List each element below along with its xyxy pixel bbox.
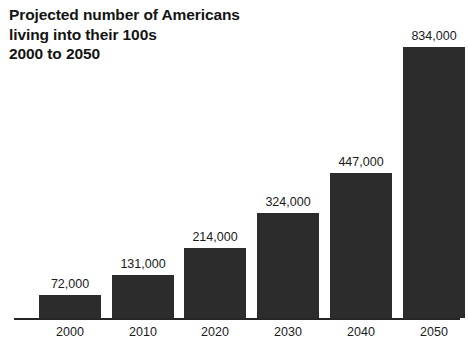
bar-group: 214,000 (184, 248, 246, 318)
bar-group: 131,000 (112, 275, 174, 318)
bar-value-label: 834,000 (389, 29, 468, 43)
x-tick-label-2010: 2010 (104, 324, 182, 340)
x-tick-label-2030: 2030 (249, 324, 327, 340)
bar-value-label: 72,000 (25, 277, 115, 291)
bar (403, 47, 465, 318)
bar-value-label: 131,000 (98, 257, 188, 271)
x-tick-label-2040: 2040 (322, 324, 400, 340)
bar-group: 324,000 (257, 213, 319, 318)
x-tick-label-2050: 2050 (395, 324, 468, 340)
x-axis-tick-labels: 200020102020203020402050 (14, 324, 460, 344)
bar-value-label: 324,000 (243, 195, 333, 209)
x-axis-line (14, 318, 460, 320)
bar-group: 834,000 (403, 47, 465, 318)
bar-value-label: 214,000 (170, 230, 260, 244)
bar (330, 173, 392, 318)
bar (112, 275, 174, 318)
plot-area: 72,000131,000214,000324,000447,000834,00… (14, 40, 460, 320)
bar (184, 248, 246, 318)
bar (39, 295, 101, 318)
bar-group: 447,000 (330, 173, 392, 318)
bar-value-label: 447,000 (316, 155, 406, 169)
x-tick-label-2020: 2020 (176, 324, 254, 340)
x-tick-label-2000: 2000 (31, 324, 109, 340)
bar (257, 213, 319, 318)
bars-layer: 72,000131,000214,000324,000447,000834,00… (14, 40, 460, 318)
bar-group: 72,000 (39, 295, 101, 318)
bar-chart-figure: Projected number of Americans living int… (0, 0, 468, 352)
